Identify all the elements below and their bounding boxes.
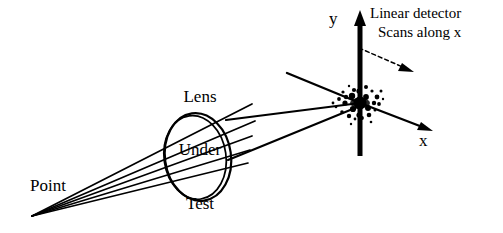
axis-z-line — [287, 73, 360, 103]
focal-spot-core-flare — [350, 98, 370, 108]
point-source-label: Point Source — [30, 141, 77, 233]
axis-x-label: x — [419, 132, 428, 150]
optical-setup-diagram: Point Source Lens Under Test Linear dete… — [0, 0, 503, 233]
axis-y-arrow — [354, 10, 366, 30]
linear-detector-label: Linear detector — [370, 6, 461, 22]
converging-ray-upper — [226, 103, 360, 120]
point-source-label-line1: Point — [30, 177, 77, 195]
lens-label-line1: Lens — [158, 88, 242, 106]
lens-label-line2: Under — [158, 141, 242, 159]
scan-direction-label: Scans along x — [378, 25, 461, 41]
lens-under-test-label: Lens Under Test — [158, 52, 242, 233]
scan-direction-arrow — [359, 48, 414, 72]
axis-x-arrow — [360, 103, 433, 131]
lens-label-line3: Test — [158, 195, 242, 213]
point-source-label-line2: Source — [30, 230, 77, 233]
axis-y-label: y — [329, 10, 338, 28]
converging-ray-lower — [228, 106, 360, 160]
